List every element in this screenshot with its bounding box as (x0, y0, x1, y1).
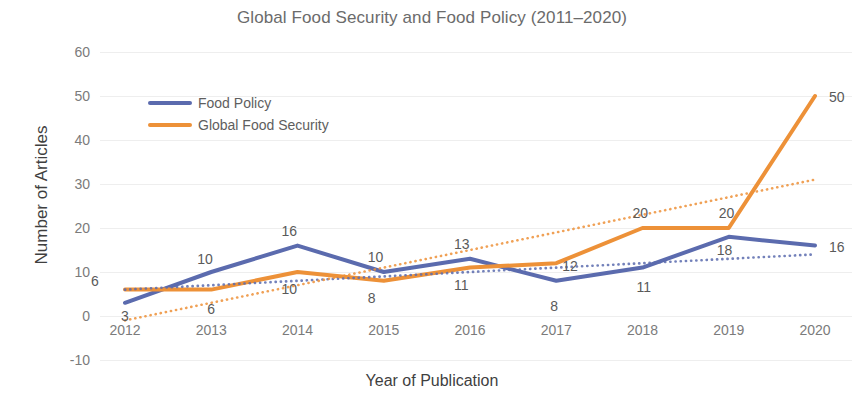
data-label: 3 (121, 309, 129, 323)
data-label: 10 (368, 250, 384, 264)
data-label: 12 (562, 259, 578, 273)
legend-item[interactable]: Global Food Security (148, 114, 329, 136)
data-label: 6 (207, 302, 215, 316)
data-label: 10 (197, 252, 213, 266)
chart-legend: Food Policy Global Food Security (148, 92, 329, 136)
data-label: 13 (454, 237, 470, 251)
legend-label-food-policy: Food Policy (198, 95, 271, 111)
legend-item[interactable]: Food Policy (148, 92, 329, 114)
plot-lines (0, 0, 864, 412)
data-label: 6 (91, 274, 99, 288)
legend-swatch-global-food-security (148, 123, 192, 127)
data-label: 18 (717, 243, 733, 257)
series-line (125, 180, 815, 321)
legend-label-global-food-security: Global Food Security (198, 117, 329, 133)
legend-swatch-food-policy (148, 101, 192, 105)
data-label: 11 (637, 280, 652, 294)
data-label: 8 (368, 291, 376, 305)
data-label: 16 (829, 240, 845, 254)
series-line (125, 237, 815, 303)
data-label: 50 (829, 90, 845, 104)
data-label: 8 (550, 299, 558, 313)
data-label: 10 (282, 282, 298, 296)
data-label: 20 (719, 206, 735, 220)
data-label: 16 (282, 224, 298, 238)
data-label: 20 (633, 206, 649, 220)
data-label: 11 (454, 278, 469, 292)
chart-container: Global Food Security and Food Policy (20… (0, 0, 864, 412)
